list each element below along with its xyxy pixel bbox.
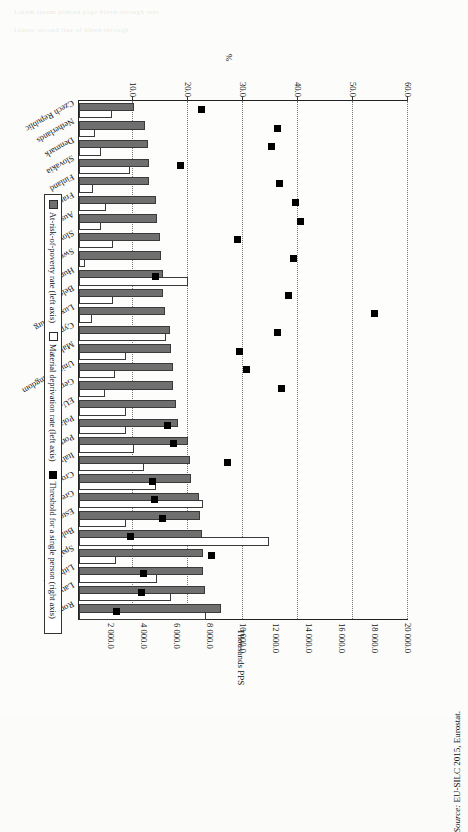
marker-threshold-single-person xyxy=(278,385,285,392)
category-group: Portugal xyxy=(79,435,408,454)
marker-threshold-single-person xyxy=(149,478,156,485)
bar-material-deprivation xyxy=(79,277,188,285)
category-group: Poland xyxy=(79,417,408,436)
open-square-icon xyxy=(49,332,58,341)
category-group: Lithuania xyxy=(79,565,408,584)
category-group: France xyxy=(79,194,408,213)
left-axis-tick-label: 50.0 xyxy=(349,43,358,101)
bar-material-deprivation xyxy=(79,612,206,620)
bar-material-deprivation xyxy=(79,203,106,211)
right-axis-tick-label: 4 000.0 xyxy=(140,619,149,685)
marker-threshold-single-person xyxy=(236,348,243,355)
category-group: Romania xyxy=(79,602,408,621)
marker-threshold-single-person xyxy=(170,440,177,447)
marker-threshold-single-person xyxy=(151,496,158,503)
bar-material-deprivation xyxy=(79,314,92,322)
left-axis-tick-label: 60.0 xyxy=(404,43,413,101)
marker-threshold-single-person xyxy=(274,125,281,132)
bar-material-deprivation xyxy=(79,407,126,415)
marker-threshold-single-person xyxy=(243,366,250,373)
bar-material-deprivation xyxy=(79,259,85,267)
marker-threshold-single-person xyxy=(208,552,215,559)
bar-material-deprivation xyxy=(79,129,95,137)
bar-material-deprivation xyxy=(79,296,113,304)
bar-material-deprivation xyxy=(79,482,156,490)
left-axis-tick-label: 20.0 xyxy=(184,43,193,101)
bar-material-deprivation xyxy=(79,240,113,248)
marker-threshold-single-person xyxy=(274,329,281,336)
left-axis-tick-label: 30.0 xyxy=(239,43,248,101)
bar-material-deprivation xyxy=(79,352,126,360)
right-axis-tick-label: 20 000.0 xyxy=(404,619,413,685)
category-group: Croatia xyxy=(79,472,408,491)
category-group: Czech Republic xyxy=(79,101,408,120)
marker-threshold-single-person xyxy=(224,459,231,466)
filled-gray-square-icon xyxy=(49,200,58,209)
right-axis-tick-label: 16 000.0 xyxy=(338,619,347,685)
bar-material-deprivation xyxy=(79,537,269,545)
chart-legend: At-risk-of-poverty rate (left axis)Mater… xyxy=(44,194,62,634)
marker-threshold-single-person xyxy=(198,106,205,113)
marker-threshold-single-person xyxy=(290,255,297,262)
filled-black-square-icon xyxy=(49,471,57,479)
category-group: EU-28 xyxy=(79,398,408,417)
category-group: Austria xyxy=(79,212,408,231)
legend-label: Threshold for a single person (right axi… xyxy=(48,482,57,619)
marker-threshold-single-person xyxy=(164,422,171,429)
marker-threshold-single-person xyxy=(371,310,378,317)
bar-material-deprivation xyxy=(79,389,105,397)
bar-material-deprivation xyxy=(79,166,131,174)
marker-threshold-single-person xyxy=(159,515,166,522)
category-group: Cyprus xyxy=(79,324,408,343)
right-axis-tick-label: 8 000.0 xyxy=(206,619,215,685)
marker-threshold-single-person xyxy=(113,608,120,615)
category-group: Greece xyxy=(79,491,408,510)
legend-label: At-risk-of-poverty rate (left axis) xyxy=(48,212,57,323)
legend-item: Threshold for a single person (right axi… xyxy=(48,471,57,619)
category-group: Netherlands xyxy=(79,120,408,139)
marker-threshold-single-person xyxy=(297,218,304,225)
bar-material-deprivation xyxy=(79,463,144,471)
bar-material-deprivation xyxy=(79,519,126,527)
marker-threshold-single-person xyxy=(140,570,147,577)
category-group: Slovenia xyxy=(79,231,408,250)
bar-material-deprivation xyxy=(79,370,115,378)
legend-item: At-risk-of-poverty rate (left axis) xyxy=(48,200,58,323)
category-group: Belgium xyxy=(79,287,408,306)
category-group: Latvia xyxy=(79,584,408,603)
bar-material-deprivation xyxy=(79,222,101,230)
bar-at-risk-of-poverty xyxy=(79,251,161,259)
bar-material-deprivation xyxy=(79,500,203,508)
right-axis-title: Thousands PPS xyxy=(236,629,246,685)
left-axis-tick-label: 40.0 xyxy=(294,43,303,101)
category-group: Germany xyxy=(79,380,408,399)
source-note: Source: EU-SILC 2015, Eurostat. xyxy=(452,711,462,832)
category-group: Finland xyxy=(79,175,408,194)
marker-threshold-single-person xyxy=(177,162,184,169)
category-group: Malta xyxy=(79,342,408,361)
source-text: EU-SILC 2015, Eurostat. xyxy=(452,711,462,803)
category-group: United Kingdom xyxy=(79,361,408,380)
category-group: Hungary xyxy=(79,268,408,287)
bar-material-deprivation xyxy=(79,333,166,341)
left-axis-tick-label: 10.0 xyxy=(129,43,138,101)
legend-item: Material deprivation rate (left axis) xyxy=(48,332,58,462)
left-axis-title: % xyxy=(224,54,234,62)
category-group: Luxembourg xyxy=(79,305,408,324)
bar-chart: 60.050.040.030.020.010.020 000.018 000.0… xyxy=(34,44,434,672)
bar-material-deprivation xyxy=(79,593,171,601)
marker-threshold-single-person xyxy=(152,273,159,280)
marker-threshold-single-person xyxy=(285,292,292,299)
legend-label: Material deprivation rate (left axis) xyxy=(48,344,57,462)
category-group: Slovakia xyxy=(79,157,408,176)
marker-threshold-single-person xyxy=(127,533,134,540)
category-group: Italy xyxy=(79,454,408,473)
bar-material-deprivation xyxy=(79,556,116,564)
bar-material-deprivation xyxy=(79,110,112,118)
category-group: Sweden xyxy=(79,250,408,269)
category-group: Denmark xyxy=(79,138,408,157)
right-axis-tick-label: 14 000.0 xyxy=(305,619,314,685)
category-group: Bulgaria xyxy=(79,528,408,547)
